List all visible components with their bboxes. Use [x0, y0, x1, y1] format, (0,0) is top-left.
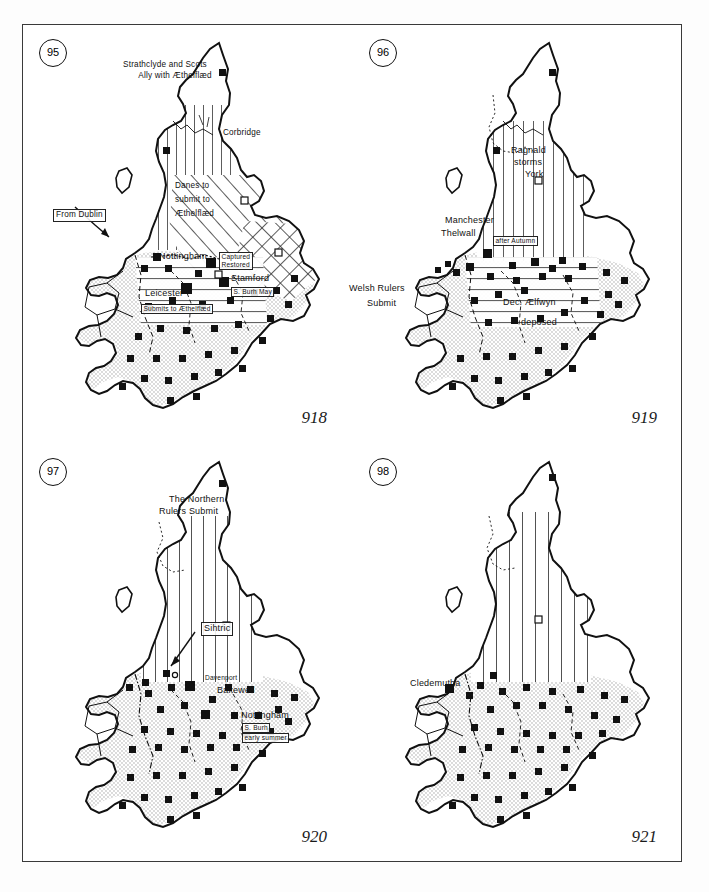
label-s-burh: S. Burh	[242, 723, 270, 733]
label-submits-to-aethelflaed: Submits to Æthelflæd	[141, 304, 213, 314]
panel-year-918: 918	[302, 408, 328, 428]
label-deposed: deposed	[521, 317, 557, 329]
label-leicester: Leicester	[145, 288, 183, 300]
plate-border: 95 918	[22, 24, 682, 862]
label-bakewell: Bakewell	[217, 685, 255, 697]
label-after-autumn: after Autumn	[493, 236, 538, 246]
label-danes-submit-line2: submit to	[175, 195, 210, 206]
panel-number-95: 95	[39, 39, 67, 67]
label-stamford: Stamford	[231, 273, 269, 285]
map-graphic-95	[23, 25, 353, 444]
label-thelwall: Thelwall	[441, 228, 476, 240]
label-corbridge: Corbridge	[223, 128, 261, 139]
map-panel-97: 97 920	[23, 444, 353, 863]
label-s-burh-may: S. Burh May	[231, 287, 274, 297]
label-sihtric: Sihtric	[201, 622, 233, 636]
label-welsh-submit: Submit	[367, 298, 396, 310]
label-storms: storms	[514, 157, 542, 169]
map-graphic-98	[353, 444, 683, 863]
label-welsh-rulers: Welsh Rulers	[349, 283, 405, 295]
map-panel-96: 96 919	[353, 25, 683, 444]
label-cledemutha: Cledemutha	[410, 678, 461, 690]
label-northern-rulers-line1: The Northern	[169, 494, 224, 506]
label-nottingham: Nottingham	[159, 251, 207, 263]
label-captured-restored: Captured Restored	[219, 252, 253, 270]
label-york: York	[525, 169, 543, 181]
panel-number-98: 98	[369, 458, 397, 486]
label-ally-aethelflaed: Ally with Æthelflæd	[85, 71, 265, 82]
label-early-summer: early summer	[242, 733, 289, 743]
figure-page: 95 918	[0, 0, 709, 892]
label-danes-submit-line3: Æthelflæd	[175, 209, 214, 220]
label-danes-submit-line1: Danes to	[175, 181, 209, 192]
map-panel-95: 95 918	[23, 25, 353, 444]
panel-year-919: 919	[632, 408, 658, 428]
label-northern-rulers-line2: Rulers Submit	[159, 506, 218, 518]
panel-year-921: 921	[632, 827, 658, 847]
label-ragnald: Ragnald	[511, 145, 546, 157]
label-dec-aelfwyn: Dec. Ælfwyn	[503, 297, 556, 309]
panel-number-97: 97	[39, 458, 67, 486]
map-graphic-96	[353, 25, 683, 444]
label-strathclyde-scots: Strathclyde and Scots	[75, 60, 255, 71]
panel-year-920: 920	[302, 827, 328, 847]
label-nottingham: Nottingham	[241, 710, 289, 722]
label-from-dublin: From Dublin	[53, 209, 106, 222]
label-davenport: Davenport	[205, 674, 237, 682]
label-manchester: Manchester	[445, 215, 494, 227]
map-panel-98: 98 921	[353, 444, 683, 863]
panel-number-96: 96	[369, 39, 397, 67]
